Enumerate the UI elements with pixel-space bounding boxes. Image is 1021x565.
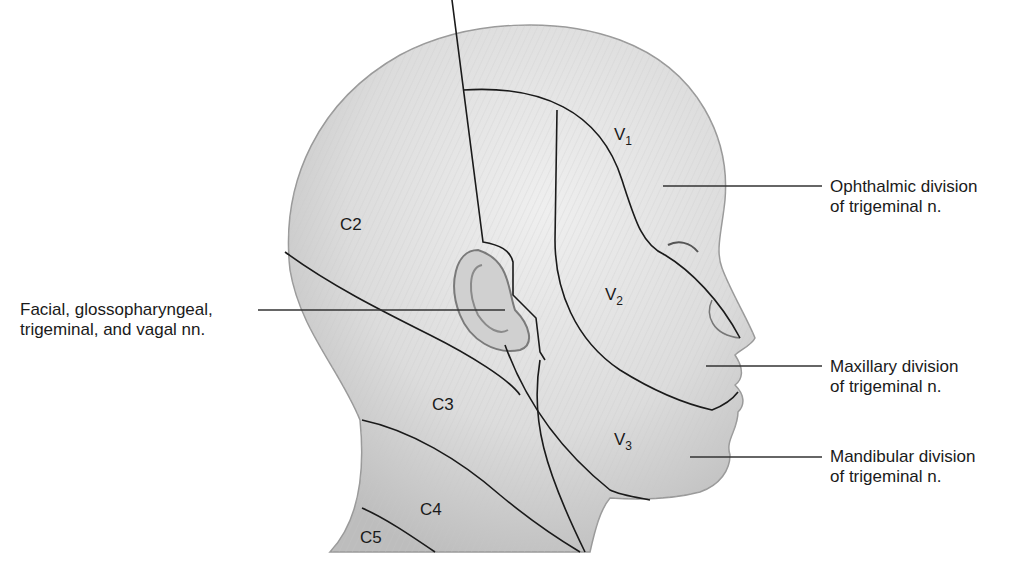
callout-mandibular: Mandibular division of trigeminal n. — [830, 447, 976, 487]
callout-maxillary-line1: Maxillary division — [830, 357, 958, 377]
callout-maxillary: Maxillary division of trigeminal n. — [830, 357, 958, 397]
callout-ophthalmic-line1: Ophthalmic division — [830, 177, 977, 197]
region-label-c5: C5 — [360, 528, 382, 547]
region-label-c4: C4 — [420, 500, 442, 519]
callout-ear-line2: trigeminal, and vagal nn. — [20, 320, 213, 340]
callout-ophthalmic-line2: of trigeminal n. — [830, 197, 977, 217]
region-label-c3: C3 — [432, 395, 454, 414]
callout-ear-line1: Facial, glossopharyngeal, — [20, 300, 213, 320]
callout-ear-nerves: Facial, glossopharyngeal, trigeminal, an… — [20, 300, 213, 340]
callout-mandibular-line1: Mandibular division — [830, 447, 976, 467]
region-label-c2: C2 — [340, 215, 362, 234]
callout-mandibular-line2: of trigeminal n. — [830, 467, 976, 487]
callout-ophthalmic: Ophthalmic division of trigeminal n. — [830, 177, 977, 217]
callout-maxillary-line2: of trigeminal n. — [830, 377, 958, 397]
